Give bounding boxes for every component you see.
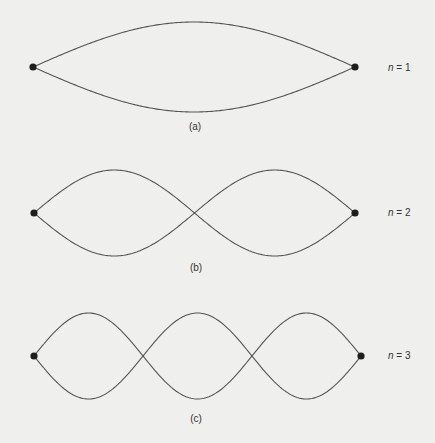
fixed-end-right — [351, 63, 358, 70]
standing-wave-diagram — [0, 0, 435, 443]
upper-envelope — [33, 22, 355, 67]
fixed-end-right — [351, 209, 358, 216]
caption-c: (c) — [190, 413, 202, 424]
caption-a: (a) — [189, 121, 201, 132]
mode-label-n1: n = 1 — [388, 62, 411, 73]
caption-b: (b) — [190, 262, 202, 273]
n-value: = 2 — [394, 207, 411, 218]
fixed-end-left — [29, 63, 36, 70]
wave-c — [30, 313, 364, 399]
fixed-end-left — [30, 209, 37, 216]
lower-envelope — [34, 313, 361, 399]
fixed-end-right — [357, 352, 364, 359]
lower-envelope — [34, 170, 355, 256]
n-value: = 3 — [394, 350, 411, 361]
mode-label-n3: n = 3 — [388, 350, 411, 361]
lower-envelope — [33, 67, 355, 112]
wave-a — [29, 22, 358, 112]
fixed-end-left — [30, 352, 37, 359]
wave-b — [30, 170, 358, 256]
n-value: = 1 — [394, 62, 411, 73]
upper-envelope — [34, 313, 361, 399]
mode-label-n2: n = 2 — [388, 207, 411, 218]
